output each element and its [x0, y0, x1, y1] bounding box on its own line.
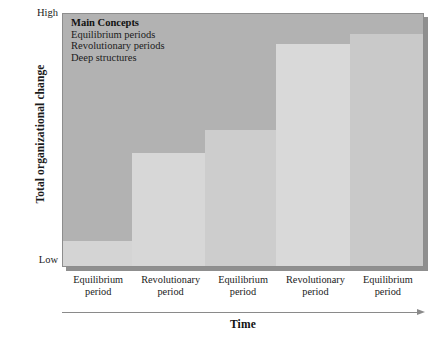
x-axis-tick-label: Equilibriumperiod [352, 274, 424, 298]
y-axis-tick-high: High [22, 7, 58, 18]
y-axis-tick-low: Low [22, 254, 58, 265]
x-axis-tick-label: Revolutionaryperiod [134, 274, 206, 298]
legend: Main Concepts Equilibrium periodsRevolut… [71, 17, 165, 63]
legend-title: Main Concepts [71, 17, 165, 29]
legend-entry: Equilibrium periods [71, 29, 165, 41]
legend-entries: Equilibrium periodsRevolutionary periods… [71, 29, 165, 64]
legend-entry: Deep structures [71, 52, 165, 64]
bar [276, 44, 351, 266]
time-axis-arrow-head-icon [417, 309, 425, 315]
plot-area: Main Concepts Equilibrium periodsRevolut… [62, 13, 424, 267]
bar [63, 241, 132, 266]
bar [350, 34, 423, 266]
y-axis-title: Total organizational change [34, 24, 46, 244]
bar [132, 153, 206, 266]
bar [205, 130, 276, 266]
legend-entry: Revolutionary periods [71, 40, 165, 52]
x-axis-tick-labels: EquilibriumperiodRevolutionaryperiodEqui… [62, 274, 424, 298]
x-axis-tick-label: Revolutionaryperiod [279, 274, 351, 298]
x-axis-tick-label: Equilibriumperiod [62, 274, 134, 298]
chart-figure: Total organizational change High Low Mai… [0, 0, 445, 337]
x-axis-title: Time [62, 318, 424, 330]
time-axis-arrow-line [62, 312, 419, 313]
x-axis-tick-label: Equilibriumperiod [207, 274, 279, 298]
